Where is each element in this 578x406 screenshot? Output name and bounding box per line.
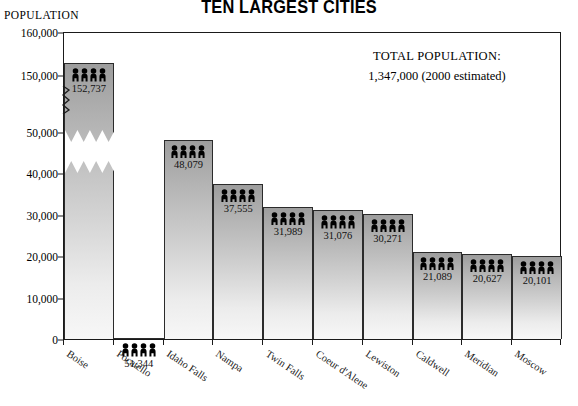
x-axis-tick-mark: [212, 340, 213, 345]
four-people-icon: [270, 212, 306, 226]
y-axis-tick-label: 30,000: [0, 210, 58, 222]
x-axis-label: Lewiston: [364, 348, 403, 379]
y-axis-tick-label: 40,000: [0, 168, 58, 180]
y-axis-tick-label: 50,000: [0, 127, 58, 139]
y-axis-tick-label: 150,000: [0, 70, 58, 82]
four-people-icon: [419, 257, 455, 271]
bar-label-group: 31,989: [264, 208, 312, 239]
four-people-icon: [469, 259, 505, 273]
bar[interactable]: 48,079: [164, 140, 214, 339]
x-axis-tick-mark: [511, 340, 512, 345]
bar-value-label: 31,989: [264, 226, 312, 238]
x-axis-tick-mark: [312, 340, 313, 345]
x-axis-label: Nampa: [214, 348, 245, 374]
total-population-annotation: TOTAL POPULATION: 1,347,000 (2000 estima…: [322, 46, 552, 86]
x-axis-label: Twin Falls: [264, 348, 307, 382]
x-axis-label: Coeur d'Alene: [314, 348, 370, 391]
y-axis-tick-label: 20,000: [0, 251, 58, 263]
x-axis-tick-mark: [461, 340, 462, 345]
bar[interactable]: 31,076: [313, 210, 363, 339]
x-axis-label: Meridian: [463, 348, 501, 379]
bar-label-group: 20,627: [463, 255, 511, 286]
bar-axis-break: [65, 151, 115, 173]
bar[interactable]: 20,101: [512, 256, 562, 339]
bar-label-group: 37,555: [214, 185, 262, 216]
bar-value-label: 37,555: [214, 203, 262, 215]
x-axis-tick-mark: [63, 340, 64, 345]
bar-label-group: 21,089: [414, 253, 462, 284]
x-axis-tick-mark: [163, 340, 164, 345]
bar[interactable]: 30,271: [363, 214, 413, 339]
x-axis-tick-mark: [262, 340, 263, 345]
four-people-icon: [519, 261, 555, 275]
bar-value-label: 21,089: [414, 271, 462, 283]
total-population-value: 1,347,000 (2000 estimated): [322, 66, 552, 86]
bar-value-label: 31,076: [314, 230, 362, 242]
bar[interactable]: 20,627: [462, 254, 512, 339]
x-axis-tick-mark: [362, 340, 363, 345]
x-axis-tick-mark: [560, 340, 561, 345]
y-axis-tick-label: 10,000: [0, 293, 58, 305]
bar-label-group: 30,271: [364, 215, 412, 246]
y-axis-tick-label: 0: [0, 334, 58, 346]
x-axis-label: Moscow: [513, 348, 549, 377]
four-people-icon: [71, 68, 107, 82]
four-people-icon: [370, 219, 406, 233]
x-axis-tick-mark: [113, 340, 114, 345]
x-axis-label: Caldwell: [413, 348, 451, 378]
total-population-caption: TOTAL POPULATION:: [322, 46, 552, 66]
x-axis-tick-mark: [412, 340, 413, 345]
x-axis-label: Boise: [65, 348, 91, 370]
y-axis-tick-label: 160,000: [0, 27, 58, 39]
four-people-icon: [170, 145, 206, 159]
bar-label-group: 20,101: [513, 257, 561, 288]
bar-value-label: 30,271: [364, 233, 412, 245]
x-axis-label: Idaho Falls: [164, 348, 209, 383]
four-people-icon: [320, 215, 356, 229]
bar-axis-break: [65, 130, 115, 152]
y-axis-title: POPULATION: [4, 9, 79, 21]
bar-label-group: 48,079: [165, 141, 213, 172]
bar-label-group: 31,076: [314, 211, 362, 242]
bar-value-label: 20,101: [513, 275, 561, 287]
bar-value-label: 48,079: [165, 159, 213, 171]
bar[interactable]: 21,089: [413, 252, 463, 339]
axis-break-icon: [59, 85, 73, 115]
bar-value-label: 20,627: [463, 273, 511, 285]
chart-title: TEN LARGEST CITIES: [40, 0, 537, 18]
bar[interactable]: 51,344: [114, 338, 164, 339]
bar[interactable]: 37,555: [213, 184, 263, 339]
four-people-icon: [220, 189, 256, 203]
bar[interactable]: 31,989: [263, 207, 313, 339]
